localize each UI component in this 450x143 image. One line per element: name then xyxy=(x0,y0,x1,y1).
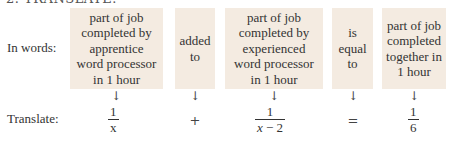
down-arrow-icon: ↓ xyxy=(106,89,126,103)
translate-label: Translate: xyxy=(7,111,59,127)
down-arrow-icon: ↓ xyxy=(264,89,284,103)
denominator: x − 2 xyxy=(255,120,285,135)
denominator-rest: − 2 xyxy=(263,120,283,135)
equals-sign: = xyxy=(343,113,363,128)
denominator: x xyxy=(108,120,119,135)
word-box-together: part of job completed together in 1 hour xyxy=(382,8,446,89)
word-box-added-to: added to xyxy=(175,8,215,89)
word-box-text: added to xyxy=(179,33,210,64)
numerator: 1 xyxy=(265,105,276,119)
word-box-text: part of job completed by experienced wor… xyxy=(234,10,314,88)
word-box-experienced: part of job completed by experienced wor… xyxy=(225,8,323,89)
word-box-text: part of job completed together in 1 hour xyxy=(386,18,442,80)
section-heading: 2. TRANSLATE. xyxy=(6,0,117,6)
in-words-label: In words: xyxy=(7,40,56,56)
word-box-text: is equal to xyxy=(338,25,366,72)
word-box-text: part of job completed by apprentice word… xyxy=(77,10,157,88)
word-box-is-equal-to: is equal to xyxy=(332,8,373,89)
fraction-one-over-six: 1 6 xyxy=(408,104,419,135)
numerator: 1 xyxy=(108,105,119,119)
word-box-apprentice: part of job completed by apprentice word… xyxy=(70,8,163,89)
down-arrow-icon: ↓ xyxy=(404,89,424,103)
fraction-one-over-x-minus-2: 1 x − 2 xyxy=(255,104,285,135)
denominator: 6 xyxy=(408,120,419,135)
down-arrow-icon: ↓ xyxy=(185,89,205,103)
down-arrow-icon: ↓ xyxy=(343,89,363,103)
plus-sign: + xyxy=(185,113,205,128)
numerator: 1 xyxy=(408,105,419,119)
fraction-one-over-x: 1 x xyxy=(108,104,119,135)
